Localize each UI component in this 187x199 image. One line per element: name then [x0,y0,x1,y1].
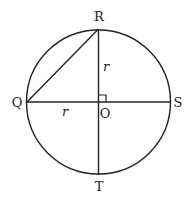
point-label-t: T [95,179,104,194]
right-angle-marker [99,95,107,102]
point-label-s: S [174,95,183,110]
diagram-canvas: R Q O S T r r [0,0,187,199]
point-label-q: Q [12,95,23,110]
circle-diagram: R Q O S T r r [0,0,187,199]
point-label-o: O [100,106,111,121]
radius-label-horizontal: r [62,104,69,119]
point-label-r: R [94,9,105,24]
radius-label-vertical: r [103,59,110,74]
